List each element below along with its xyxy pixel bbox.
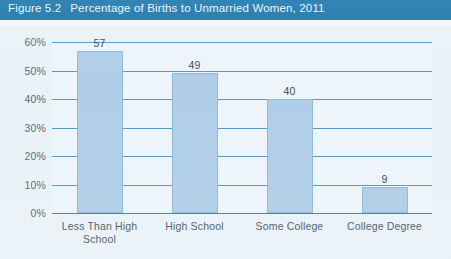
figure-container: Figure 5.2Percentage of Births to Unmarr…: [0, 0, 451, 259]
bar[interactable]: [172, 73, 218, 213]
figure-title: Figure 5.2Percentage of Births to Unmarr…: [8, 0, 325, 18]
bar-value-label: 9: [362, 173, 408, 185]
x-axis-label: Less Than High School: [56, 220, 143, 246]
figure-number: Figure 5.2: [8, 2, 61, 14]
bar-value-label: 40: [267, 85, 313, 97]
bar-value-label: 57: [77, 37, 123, 49]
x-axis-label: College Degree: [341, 220, 428, 233]
y-axis-tick-labels: 0%10%20%30%40%50%60%: [0, 42, 46, 213]
y-axis-label: 60%: [2, 36, 46, 48]
bar[interactable]: [267, 99, 313, 213]
y-axis-label: 30%: [2, 122, 46, 134]
x-axis-label: Some College: [246, 220, 333, 233]
plot-area: 5749409: [52, 42, 432, 213]
y-axis-label: 40%: [2, 93, 46, 105]
gridline-0: [52, 213, 432, 214]
y-axis-label: 10%: [2, 179, 46, 191]
bar[interactable]: [362, 187, 408, 213]
bar[interactable]: [77, 51, 123, 213]
y-axis-label: 0%: [2, 207, 46, 219]
chart-canvas: 0%10%20%30%40%50%60% 5749409 Less Than H…: [0, 26, 451, 259]
bar-value-label: 49: [172, 59, 218, 71]
figure-header-bar: Figure 5.2Percentage of Births to Unmarr…: [0, 0, 451, 20]
x-axis-tick-labels: Less Than High SchoolHigh SchoolSome Col…: [52, 216, 432, 258]
figure-title-text: Percentage of Births to Unmarried Women,…: [70, 2, 324, 14]
y-axis-label: 50%: [2, 65, 46, 77]
x-axis-label: High School: [151, 220, 238, 233]
y-axis-label: 20%: [2, 150, 46, 162]
